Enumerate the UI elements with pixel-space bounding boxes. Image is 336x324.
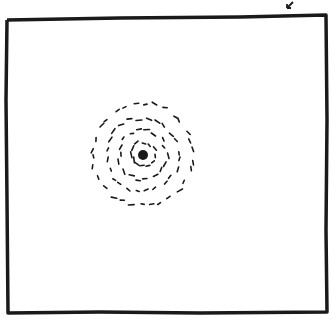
center-blob	[138, 150, 148, 160]
sketch-canvas	[0, 0, 336, 324]
square-frame	[6, 15, 327, 313]
arrow-mark-icon	[287, 2, 293, 8]
